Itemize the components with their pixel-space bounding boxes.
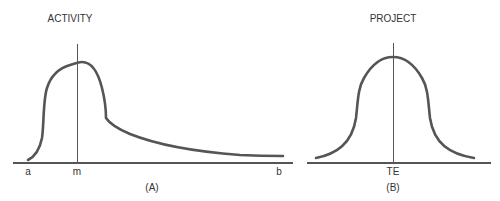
panel-project xyxy=(307,43,491,163)
activity-label-m: m xyxy=(73,166,81,177)
project-title: PROJECT xyxy=(370,13,417,24)
activity-label-a: a xyxy=(25,166,31,177)
activity-label-b: b xyxy=(276,166,282,177)
project-label-te: TE xyxy=(387,166,400,177)
activity-caption: (A) xyxy=(145,182,158,193)
activity-distribution-curve xyxy=(28,62,283,160)
project-distribution-curve xyxy=(316,57,474,158)
panel-activity xyxy=(13,44,293,163)
activity-title: ACTIVITY xyxy=(47,13,92,24)
project-caption: (B) xyxy=(386,182,399,193)
